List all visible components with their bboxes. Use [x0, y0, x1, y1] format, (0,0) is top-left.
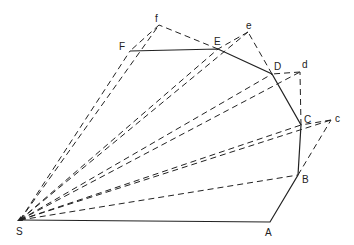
solid-polygon	[20, 49, 301, 222]
dashed-line-S-e	[20, 32, 248, 220]
point-label-f: f	[155, 14, 158, 24]
dashed-line-S-B	[20, 175, 298, 220]
construction-drawing	[0, 0, 354, 245]
point-label-A: A	[265, 228, 272, 238]
dashed-line-D-e	[248, 32, 272, 74]
point-label-c: c	[335, 114, 340, 124]
diagram-canvas: SABCcDdEeFf	[0, 0, 354, 245]
dashed-line-f-F	[130, 25, 159, 51]
point-label-d: d	[302, 60, 308, 70]
point-label-B: B	[302, 175, 309, 185]
dashed-line-E-f	[159, 25, 218, 49]
dashed-line-S-C	[20, 125, 301, 220]
dashed-lines	[20, 25, 331, 220]
point-label-F: F	[119, 42, 125, 52]
solid-polyline	[20, 49, 301, 222]
point-label-E: E	[214, 37, 221, 47]
dashed-line-B-c	[298, 120, 331, 175]
dashed-line-S-E	[20, 49, 218, 220]
point-label-e: e	[246, 21, 252, 31]
dashed-line-S-c	[20, 120, 331, 220]
dashed-line-S-D	[20, 74, 272, 220]
point-label-D: D	[274, 62, 281, 72]
dashed-line-e-E	[218, 32, 248, 49]
point-label-C: C	[304, 115, 311, 125]
dashed-line-S-F	[20, 51, 130, 220]
point-label-S: S	[16, 227, 23, 237]
dashed-line-C-d	[300, 72, 301, 125]
